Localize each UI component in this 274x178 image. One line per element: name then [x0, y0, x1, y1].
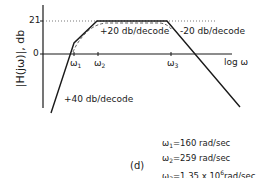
y-tick-21: 21	[29, 16, 40, 25]
y-tick-0: 0	[33, 49, 39, 58]
legend-w3: ω3=1.35 x 106rad/sec	[162, 167, 255, 178]
x-axis-label: log ω	[224, 58, 248, 67]
x-tick-w2: ω2	[94, 59, 105, 69]
y-axis-label: |H(jω)|, db	[14, 29, 27, 89]
x-tick-w1: ω1	[70, 59, 81, 69]
slope-label-plus40: +40 db/decode	[64, 95, 133, 104]
slope-label-plus20: +20 db/decode	[100, 27, 169, 36]
legend-w1: ω1=160 rad/sec	[162, 137, 255, 152]
legend-w2: ω2=259 rad/sec	[162, 152, 255, 167]
corner-frequency-legend: ω1=160 rad/sec ω2=259 rad/sec ω3=1.35 x …	[162, 137, 255, 178]
x-tick-w3: ω3	[167, 59, 178, 69]
figure-caption: (d)	[130, 161, 144, 171]
slope-label-minus20: -20 db/decode	[180, 27, 245, 36]
